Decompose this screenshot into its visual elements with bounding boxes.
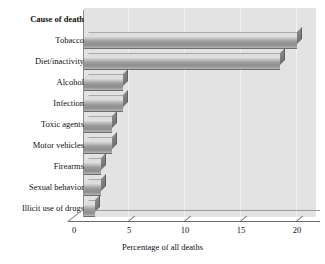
bar-front-face — [84, 79, 123, 91]
bar-front-face — [84, 142, 112, 154]
axis-front-edge — [68, 221, 320, 222]
x-axis-title: Percentage of all deaths — [0, 242, 325, 252]
bar-alcohol — [84, 79, 123, 91]
bar-end-cap — [297, 27, 302, 44]
bar-chart: Cause of death Tobacco Diet/inactivity A… — [0, 0, 325, 264]
bar-end-cap — [101, 174, 106, 191]
axis-back-edge — [84, 210, 320, 211]
value-axis — [68, 210, 320, 224]
bar-end-cap — [101, 153, 106, 170]
bar-motor-vehicles — [84, 142, 112, 154]
xtick-label-15: 15 — [230, 225, 252, 235]
xtick-label-20: 20 — [286, 225, 308, 235]
bar-diet-inactivity — [84, 58, 280, 70]
bar-series — [0, 0, 325, 264]
bar-end-cap — [123, 90, 128, 107]
bar-end-cap — [112, 132, 117, 149]
bar-end-cap — [280, 48, 285, 65]
bar-front-face — [84, 100, 123, 112]
bar-front-face — [84, 58, 280, 70]
bar-end-cap — [123, 69, 128, 86]
bar-sexual-behavior — [84, 184, 101, 196]
bar-tobacco — [84, 37, 297, 49]
bar-end-cap — [112, 111, 117, 128]
bar-front-face — [84, 184, 101, 196]
bar-front-face — [84, 121, 112, 133]
xtick-label-0: 0 — [63, 225, 85, 235]
bar-infection — [84, 100, 123, 112]
xtick-label-5: 5 — [118, 225, 140, 235]
xtick-label-10: 10 — [174, 225, 196, 235]
bar-toxic-agents — [84, 121, 112, 133]
bar-front-face — [84, 37, 297, 49]
bar-front-face — [84, 163, 101, 175]
bar-firearms — [84, 163, 101, 175]
